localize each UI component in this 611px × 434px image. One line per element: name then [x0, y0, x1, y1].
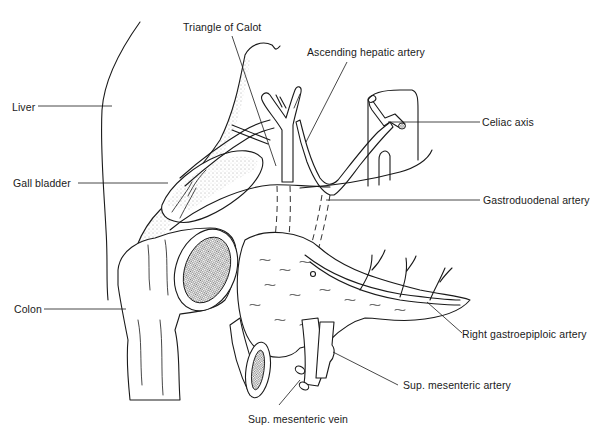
label-right-gastroepiploic-artery: Right gastroepiploic artery: [462, 328, 587, 340]
celiac-axis: [300, 90, 432, 188]
label-colon: Colon: [14, 303, 42, 315]
label-triangle-of-calot: Triangle of Calot: [183, 21, 261, 33]
colon: [118, 220, 249, 400]
label-gall-bladder: Gall bladder: [13, 177, 71, 189]
label-gastroduodenal-artery: Gastroduodenal artery: [483, 194, 590, 206]
label-ascending-hepatic-artery: Ascending hepatic artery: [307, 46, 425, 58]
label-sup-mesenteric-vein: Sup. mesenteric vein: [248, 413, 348, 425]
label-liver: Liver: [12, 101, 35, 113]
anatomy-diagram: Triangle of Calot Ascending hepatic arte…: [0, 0, 611, 434]
pancreas: [237, 232, 470, 357]
illustration-drawing: [0, 0, 611, 434]
label-celiac-axis: Celiac axis: [482, 116, 534, 128]
label-sup-mesenteric-artery: Sup. mesenteric artery: [403, 379, 511, 391]
